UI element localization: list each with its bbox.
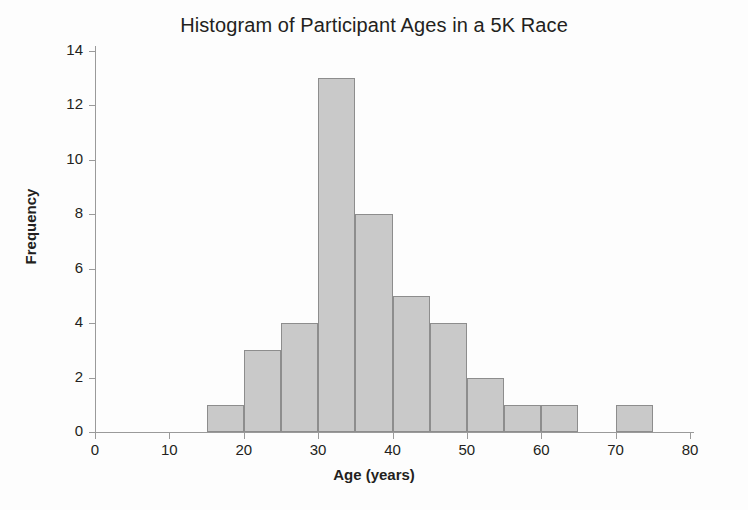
- x-axis-tick-label: 80: [660, 441, 720, 458]
- x-axis-tick: [690, 433, 691, 439]
- histogram-bar: [355, 214, 392, 432]
- x-axis-tick: [393, 433, 394, 439]
- y-axis-tick-label: 6: [49, 259, 83, 276]
- x-axis-tick-label: 70: [586, 441, 646, 458]
- x-axis-tick: [541, 433, 542, 439]
- x-axis-tick-label: 60: [511, 441, 571, 458]
- histogram-bar: [504, 405, 541, 432]
- x-axis-tick-label: 40: [363, 441, 423, 458]
- chart-title: Histogram of Participant Ages in a 5K Ra…: [0, 14, 748, 37]
- y-axis-tick-label: 10: [49, 150, 83, 167]
- y-axis-tick-label: 0: [49, 422, 83, 439]
- histogram-bar: [244, 350, 281, 432]
- histogram-bar: [393, 296, 430, 432]
- x-axis-label: Age (years): [0, 466, 748, 483]
- y-axis-tick-label: 2: [49, 368, 83, 385]
- x-axis-tick: [318, 433, 319, 439]
- x-axis-tick: [616, 433, 617, 439]
- x-axis-tick: [244, 433, 245, 439]
- x-axis-tick-label: 30: [288, 441, 348, 458]
- histogram-bar: [430, 323, 467, 432]
- x-axis-tick-label: 20: [214, 441, 274, 458]
- histogram-bar: [467, 378, 504, 432]
- x-axis-tick: [467, 433, 468, 439]
- x-axis-tick-label: 10: [139, 441, 199, 458]
- y-axis-label: Frequency: [22, 147, 39, 307]
- x-axis-tick: [169, 433, 170, 439]
- histogram-bar: [541, 405, 578, 432]
- y-axis-tick-label: 12: [49, 95, 83, 112]
- y-axis-tick-label: 8: [49, 204, 83, 221]
- histogram-bar: [318, 78, 355, 432]
- x-axis-tick-label: 0: [65, 441, 125, 458]
- histogram-figure: Histogram of Participant Ages in a 5K Ra…: [0, 0, 748, 510]
- plot-area: [95, 51, 690, 432]
- histogram-bar: [207, 405, 244, 432]
- x-axis-tick-label: 50: [437, 441, 497, 458]
- histogram-bars: [95, 51, 690, 432]
- y-axis-tick-label: 14: [49, 41, 83, 58]
- histogram-bar: [616, 405, 653, 432]
- x-axis-line: [90, 432, 694, 433]
- histogram-bar: [281, 323, 318, 432]
- y-axis-tick-label: 4: [49, 313, 83, 330]
- x-axis-tick: [95, 433, 96, 439]
